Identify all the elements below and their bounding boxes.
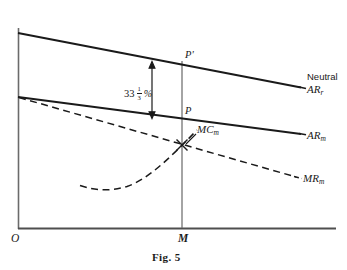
mc-m-curve <box>80 130 197 190</box>
mr-m-label-base: MR <box>303 172 319 184</box>
point-p-prime-tick: ' <box>191 49 193 60</box>
output-m-label: M <box>178 233 188 245</box>
mc-m-label-subscript: m <box>214 128 219 137</box>
point-p-label: P <box>185 106 191 117</box>
price-gap-whole: 33 <box>124 89 135 100</box>
point-p-prime-label: P' <box>185 50 194 61</box>
neutral-label: Neutral <box>307 72 338 82</box>
figure-5-diagram: O M P' P 33 1 3 % Neutral ARr ARm MRm MC… <box>0 0 347 270</box>
ar-m-label: ARm <box>307 130 326 143</box>
mr-m-label-leader <box>294 177 302 179</box>
mc-m-label: MCm <box>197 124 219 137</box>
ar-r-label: ARr <box>307 84 323 97</box>
price-gap-denominator: 3 <box>137 95 142 102</box>
ar-r-curve <box>18 33 301 88</box>
mr-m-label-subscript: m <box>319 177 324 186</box>
mc-m-label-base: MC <box>197 123 214 135</box>
price-gap-numerator: 1 <box>137 86 142 93</box>
ar-r-label-subscript: r <box>320 88 323 97</box>
mr-m-label: MRm <box>303 173 324 186</box>
ar-r-label-base: AR <box>307 83 320 95</box>
price-gap-fraction: 1 3 <box>137 86 142 101</box>
ar-m-label-subscript: m <box>320 134 325 143</box>
diagram-canvas <box>0 0 347 270</box>
axes-group <box>18 28 336 229</box>
origin-label: O <box>11 233 19 245</box>
figure-caption: Fig. 5 <box>152 252 181 263</box>
ar-m-label-base: AR <box>307 129 320 141</box>
price-gap-value: 33 1 3 % <box>124 87 152 102</box>
mr-m-curve <box>19 98 296 178</box>
price-gap-annotation: 33 1 3 % <box>124 84 152 102</box>
ar-m-curve <box>18 97 301 134</box>
price-gap-percent-sign: % <box>144 89 152 99</box>
